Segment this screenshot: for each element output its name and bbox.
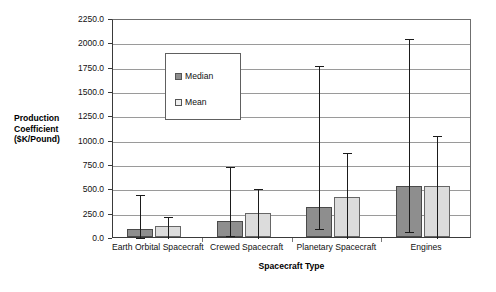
mean-swatch-icon [175,99,182,106]
y-axis-tick-label: 250.0 [4,210,104,218]
y-axis-tick-label: 2250.0 [4,15,104,23]
y-axis-tick-mark [108,92,112,93]
y-axis-title: ProductionCoefficient($K/Pound) [14,113,92,145]
y-axis-tick-mark [108,165,112,166]
median-swatch-icon [175,73,182,80]
error-bar-line [437,136,438,239]
error-bar-cap-top [405,39,414,40]
error-bar-line [168,217,169,239]
x-axis-tick-label: Earth Orbital Spacecraft [112,242,202,252]
error-bar-cap-bottom [136,238,145,239]
y-axis-tick-mark [108,141,112,142]
legend-item-mean: Mean [175,98,207,107]
y-axis-title-line: Production [14,113,92,124]
error-bar-cap-top [226,167,235,168]
y-axis-tick-mark [108,238,112,239]
error-bar-cap-top [343,153,352,154]
error-bar-cap-top [164,217,173,218]
error-bar-cap-bottom [315,229,324,230]
y-axis-tick-label: 1750.0 [4,64,104,72]
y-axis-tick-label: 500.0 [4,185,104,193]
error-bar-cap-top [136,195,145,196]
gridline [113,142,470,143]
x-axis-tick-label: Crewed Spacecraft [202,242,292,252]
legend-label-mean: Mean [185,98,207,107]
x-axis-title: Spacecraft Type [112,261,471,271]
y-axis-tick-label: 2000.0 [4,39,104,47]
y-axis-tick-label: 1500.0 [4,88,104,96]
y-axis-tick-label: 750.0 [4,161,104,169]
error-bar-cap-top [433,136,442,137]
error-bar-cap-bottom [405,232,414,233]
chart-figure: 0.0250.0500.0750.01000.01250.01500.01750… [0,0,496,292]
y-axis-tick-mark [108,68,112,69]
y-axis-tick-mark [108,19,112,20]
error-bar-cap-top [315,66,324,67]
error-bar-cap-top [254,189,263,190]
y-axis-title-line: Coefficient [14,124,92,135]
error-bar-line [258,189,259,239]
plot-area [112,19,471,238]
error-bar-line [409,39,410,231]
legend-item-median: Median [175,72,213,81]
y-axis-title-line: ($K/Pound) [14,134,92,145]
y-axis-tick-mark [108,116,112,117]
error-bar-line [230,167,231,236]
gridline [113,44,470,45]
error-bar-line [347,153,348,239]
x-axis-tick-label: Engines [381,242,471,252]
error-bar-cap-bottom [226,236,235,237]
y-axis-labels: 0.0250.0500.0750.01000.01250.01500.01750… [0,0,104,292]
y-axis-tick-mark [108,189,112,190]
chart-legend: Median Mean [165,53,241,120]
y-axis-tick-label: 0.0 [4,234,104,242]
x-axis-tick-label: Planetary Spacecraft [292,242,382,252]
error-bar-line [319,66,320,230]
gridline [113,166,470,167]
y-axis-tick-mark [108,43,112,44]
error-bar-line [140,195,141,238]
legend-label-median: Median [185,72,213,81]
y-axis-tick-mark [108,214,112,215]
